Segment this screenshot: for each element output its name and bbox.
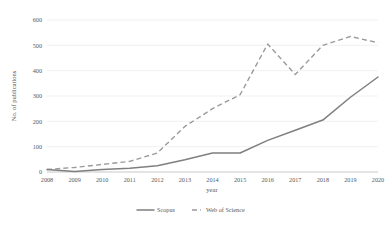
x-axis-tick-label: 2019 [344, 176, 356, 183]
x-axis-tick-label: 2010 [96, 176, 108, 183]
x-axis-tick-label: 2017 [289, 176, 301, 183]
gridlines-group [47, 20, 378, 172]
y-axis-tick-labels: 0100200300400500600 [33, 16, 42, 175]
x-axis-tick-label: 2018 [317, 176, 329, 183]
legend-label: Scopus [157, 206, 175, 213]
series-line-web-of-science [47, 36, 378, 169]
series-line-scopus [47, 77, 378, 171]
chart-canvas: 0100200300400500600 20082009201020112012… [0, 0, 391, 225]
y-axis-tick-label: 300 [33, 92, 42, 99]
x-axis-tick-label: 2013 [179, 176, 191, 183]
x-axis-tick-label: 2020 [372, 176, 384, 183]
y-axis-tick-label: 200 [33, 118, 42, 125]
x-axis-tick-label: 2012 [151, 176, 163, 183]
y-axis-tick-label: 100 [33, 143, 42, 150]
x-axis-tick-label: 2015 [234, 176, 246, 183]
legend-item-web-of-science[interactable]: Web of Science [192, 206, 245, 213]
x-axis-tick-label: 2009 [68, 176, 80, 183]
chart-legend: ScopusWeb of Science [137, 206, 245, 213]
y-axis-tick-label: 0 [39, 168, 42, 175]
x-axis-tick-label: 2011 [124, 176, 136, 183]
y-axis-tick-label: 600 [33, 16, 42, 23]
x-axis-title: year [206, 186, 218, 193]
x-axis-tick-label: 2016 [261, 176, 273, 183]
y-axis-title: No. of publications [10, 70, 17, 121]
x-axis-tick-label: 2014 [206, 176, 218, 183]
x-axis-tick-label: 2008 [41, 176, 53, 183]
legend-item-scopus[interactable]: Scopus [137, 206, 175, 213]
legend-label: Web of Science [206, 206, 245, 213]
publications-line-chart: 0100200300400500600 20082009201020112012… [0, 0, 391, 225]
y-axis-tick-label: 500 [33, 42, 42, 49]
x-axis-tick-labels: 2008200920102011201220132014201520162017… [41, 176, 384, 183]
y-axis-tick-label: 400 [33, 67, 42, 74]
